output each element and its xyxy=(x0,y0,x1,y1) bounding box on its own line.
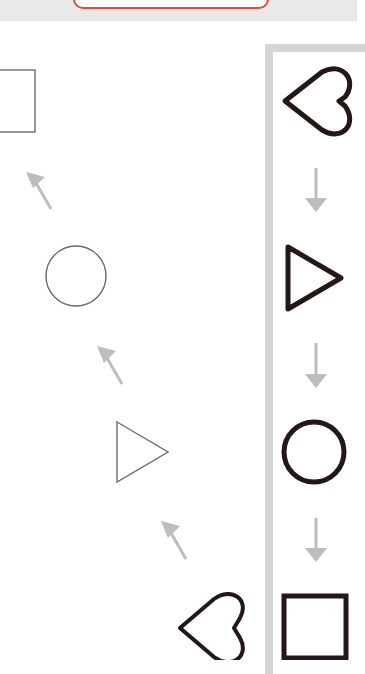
arrow-down-icon xyxy=(305,168,327,212)
arrow-up-left-icon xyxy=(161,521,186,559)
arrow-up-left-icon xyxy=(97,346,122,384)
arrow-up-left-icon xyxy=(26,172,51,209)
left-heart-icon xyxy=(180,594,243,660)
right-circle-icon xyxy=(284,422,344,482)
right-triangle-icon xyxy=(288,247,341,309)
right-heart-icon xyxy=(285,69,350,134)
arrow-down-icon xyxy=(305,343,327,388)
arrow-down-icon xyxy=(305,518,327,562)
left-square-icon xyxy=(0,70,35,132)
left-circle-icon xyxy=(46,246,106,306)
left-triangle-icon xyxy=(117,422,168,482)
right-square-icon xyxy=(284,596,346,658)
